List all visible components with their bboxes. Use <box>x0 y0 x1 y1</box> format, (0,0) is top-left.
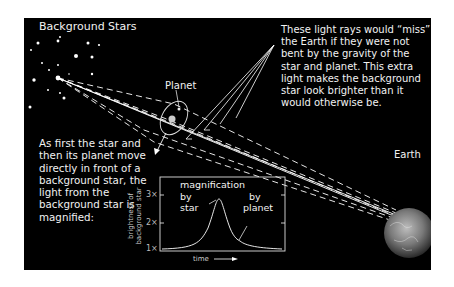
y-axis-label: brightness of background star <box>127 186 143 246</box>
tick-3x: 3× <box>146 190 158 199</box>
by-planet-label: planet <box>243 203 273 214</box>
planet-icon <box>178 108 181 111</box>
by-planet-by: by <box>249 192 261 203</box>
tick-1x: 1× <box>146 244 158 253</box>
lens-star-icon <box>169 116 176 123</box>
x-axis-label: time <box>193 255 209 263</box>
by-star-label: star <box>180 203 198 214</box>
earth-label: Earth <box>394 149 421 162</box>
background-stars-label: Background Stars <box>39 21 136 34</box>
y-axis-label-line1: brightness of <box>127 186 135 246</box>
light-rays-note: These light rays would “miss” the Earth … <box>281 24 431 109</box>
by-star-by: by <box>180 192 192 203</box>
background-stars-icon <box>29 36 101 109</box>
tick-2x: 2× <box>146 218 158 227</box>
diagram-panel: Background Stars These light rays would … <box>24 18 431 270</box>
y-axis-label-line2: background star <box>135 186 143 246</box>
motion-arrow-icon <box>157 133 166 151</box>
graph-title: magnification <box>180 180 245 191</box>
planet-label: Planet <box>165 80 196 93</box>
